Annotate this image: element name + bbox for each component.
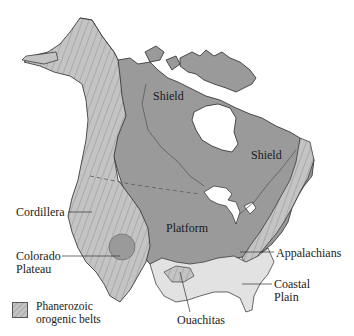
label-ouachitas: Ouachitas <box>177 314 225 327</box>
label-shield-west: Shield <box>153 90 184 103</box>
legend-swatch-hatched <box>12 302 28 318</box>
label-coastal-plain-2: Plain <box>274 291 299 304</box>
legend-label-2: orogenic belts <box>36 313 101 326</box>
label-shield-east: Shield <box>251 149 282 162</box>
legend-label-1: Phanerozoic <box>36 300 93 313</box>
label-colorado-plateau-2: Plateau <box>16 263 51 276</box>
label-platform: Platform <box>166 222 208 235</box>
colorado-plateau <box>109 234 135 260</box>
arctic-islands <box>180 50 256 92</box>
label-appalachians: Appalachians <box>276 247 341 260</box>
label-cordillera: Cordillera <box>16 206 65 219</box>
